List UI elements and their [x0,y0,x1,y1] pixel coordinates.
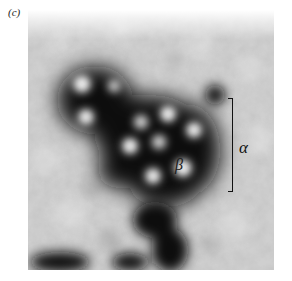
micrograph-image [0,0,292,281]
alpha-bracket [228,98,233,192]
alpha-label: α [239,138,248,158]
beta-label: β [175,156,183,174]
